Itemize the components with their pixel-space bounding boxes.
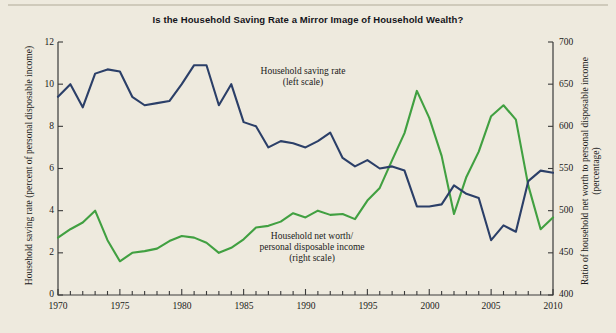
y-axis-left-ticks [58, 42, 63, 295]
y-axis-right-ticks [548, 42, 553, 295]
series-line-net-worth [58, 91, 553, 261]
x-axis-ticks [58, 289, 553, 295]
chart-figure: Is the Household Saving Rate a Mirror Im… [0, 0, 616, 333]
axis-frame [58, 42, 553, 295]
plot-canvas [0, 0, 616, 333]
plot-frame [58, 42, 553, 295]
